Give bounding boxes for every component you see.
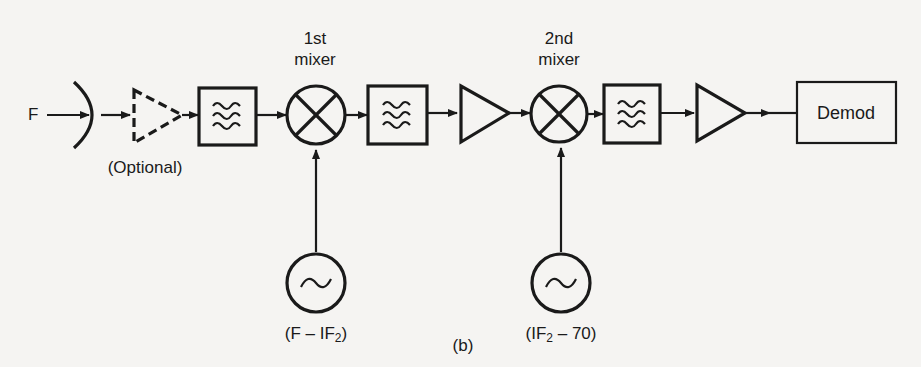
bandpass-filter-1-icon bbox=[199, 88, 256, 145]
lo-2-frequency-label: (IF2 – 70) bbox=[526, 325, 597, 344]
figure-caption: (b) bbox=[453, 337, 474, 354]
mixer-1-label-line1: 1st bbox=[304, 30, 327, 47]
mixer-2-label-line2: mixer bbox=[538, 51, 580, 68]
optional-amplifier-icon bbox=[134, 90, 182, 143]
mixer-2-icon bbox=[531, 86, 587, 142]
local-oscillator-2-icon bbox=[532, 254, 590, 312]
mixer-2-label-line1: 2nd bbox=[545, 30, 573, 47]
superhet-receiver-diagram: F (Optional) 1st mixer 2nd mixer Demod (… bbox=[0, 0, 921, 367]
mixer-1-label-line2: mixer bbox=[294, 51, 336, 68]
diagram-graphics bbox=[0, 0, 921, 367]
optional-label: (Optional) bbox=[108, 159, 183, 176]
lo-1-frequency-label: (F – IF2) bbox=[285, 325, 347, 344]
input-frequency-label: F bbox=[28, 106, 38, 123]
bandpass-filter-2-icon bbox=[368, 86, 427, 144]
amplifier-1-icon bbox=[461, 86, 509, 142]
mixer-1-icon bbox=[287, 86, 345, 144]
demodulator-label: Demod bbox=[817, 104, 875, 122]
local-oscillator-1-icon bbox=[287, 254, 345, 312]
amplifier-2-icon bbox=[697, 85, 745, 141]
bandpass-filter-3-icon bbox=[604, 85, 660, 143]
